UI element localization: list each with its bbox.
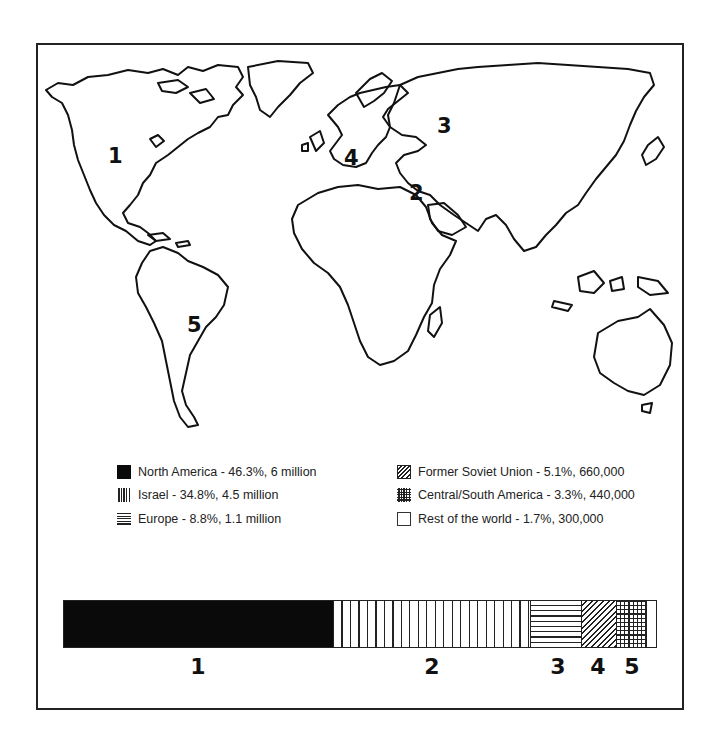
diagonal-hatch-swatch-icon (397, 465, 411, 479)
bar-segment-rest-of-world (647, 601, 656, 647)
legend-item-central-south-america: Central/South America - 3.3%, 440,000 (397, 484, 635, 508)
bar-segment-europe (531, 601, 582, 647)
legend-item-rest-of-world: Rest of the world - 1.7%, 300,000 (397, 507, 635, 531)
map-label-israel: 2 (409, 183, 424, 204)
legend-item-israel: Israel - 34.8%, 4.5 million (117, 484, 317, 508)
legend-label: Rest of the world - 1.7%, 300,000 (418, 512, 604, 526)
map-label-north-america: 1 (108, 146, 123, 167)
south-america-outline (136, 247, 228, 427)
map-label-europe: 4 (344, 148, 359, 169)
bar-segment-former-soviet-union (582, 601, 617, 647)
world-map (38, 55, 698, 455)
bar-segment-israel (334, 601, 531, 647)
bar-label-5: 5 (624, 656, 639, 678)
legend-item-europe: Europe - 8.8%, 1.1 million (117, 507, 317, 531)
bar-segment-north-america (64, 601, 334, 647)
horizontal-lines-swatch-icon (117, 512, 131, 526)
legend-label: Former Soviet Union - 5.1%, 660,000 (418, 465, 624, 479)
legend-left-column: North America - 46.3%, 6 million Israel … (117, 460, 317, 531)
vertical-lines-swatch-icon (117, 488, 131, 502)
legend-label: Israel - 34.8%, 4.5 million (138, 488, 278, 502)
blank-swatch-icon (397, 512, 411, 526)
bar-segment-central-south-america (617, 601, 647, 647)
map-label-central-south-america: 5 (187, 315, 202, 336)
africa-outline (292, 185, 456, 365)
legend-right-column: Former Soviet Union - 5.1%, 660,000 Cent… (397, 460, 635, 531)
asia-outline (388, 63, 654, 251)
bar-label-3: 3 (550, 656, 565, 678)
bar-label-1: 1 (190, 656, 205, 678)
australia-outline (594, 309, 672, 395)
solid-black-swatch-icon (117, 465, 131, 479)
stacked-bar (63, 600, 657, 648)
legend-label: North America - 46.3%, 6 million (138, 465, 317, 479)
north-america-outline (46, 65, 243, 245)
greenland-outline (248, 61, 313, 117)
legend-item-north-america: North America - 46.3%, 6 million (117, 460, 317, 484)
bar-label-2: 2 (424, 656, 439, 678)
bar-label-4: 4 (590, 656, 605, 678)
crosshatch-swatch-icon (397, 488, 411, 502)
legend-label: Central/South America - 3.3%, 440,000 (418, 488, 635, 502)
legend-item-former-soviet-union: Former Soviet Union - 5.1%, 660,000 (397, 460, 635, 484)
legend-label: Europe - 8.8%, 1.1 million (138, 512, 281, 526)
map-label-former-soviet-union: 3 (437, 116, 452, 137)
